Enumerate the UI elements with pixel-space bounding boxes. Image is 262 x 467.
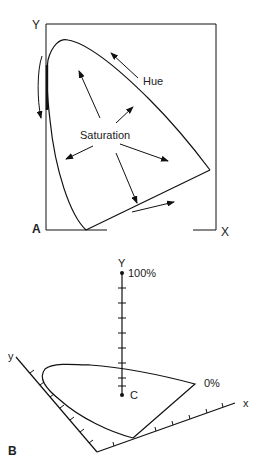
axis-y-small-label: y [8, 350, 14, 362]
spectral-locus-3d [42, 364, 195, 438]
panel-a-label: A [32, 222, 41, 236]
top-value-label: 100% [128, 267, 156, 279]
hue-arrow-icon [111, 53, 138, 78]
saturation-arrow-upright-icon [116, 107, 133, 123]
saturation-arrow-up-icon [79, 71, 100, 118]
frame [46, 24, 216, 230]
saturation-label: Saturation [80, 129, 130, 141]
hue-label: Hue [143, 75, 163, 87]
saturation-arrow-left-icon [66, 146, 93, 159]
top-point [120, 271, 124, 275]
axis-x-small-label: x [243, 397, 249, 409]
curved-arrow-icon [38, 56, 42, 118]
panel-b: Y 100% C 0% y x B [8, 257, 249, 458]
axis-Y-label: Y [118, 257, 126, 269]
y-axis [16, 357, 97, 452]
center-point [120, 393, 124, 397]
panel-b-label: B [8, 444, 17, 458]
y-axis-ticks [30, 370, 93, 443]
purple-arrow-icon [132, 202, 174, 212]
x-axis-ticks [113, 403, 223, 446]
saturation-arrow-right-icon [120, 144, 168, 161]
axis-y-label: Y [32, 18, 40, 32]
bottom-value-label: 0% [204, 377, 220, 389]
purple-line [86, 170, 210, 230]
chromaticity-diagram: Y X A Hue Saturation [0, 0, 262, 467]
panel-a: Y X A Hue Saturation [32, 18, 229, 239]
axis-x-label: X [221, 225, 229, 239]
center-label: C [130, 389, 138, 401]
x-axis [97, 403, 235, 452]
saturation-arrow-down-icon [116, 153, 137, 203]
